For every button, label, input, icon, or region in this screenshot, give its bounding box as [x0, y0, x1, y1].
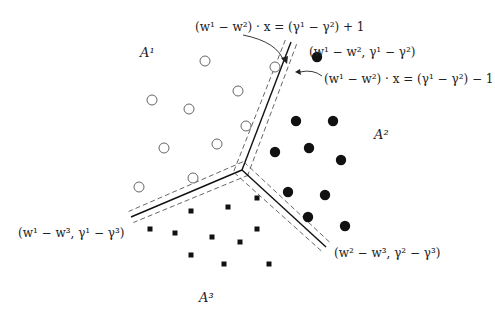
class1-point — [233, 86, 243, 96]
boundary-2-3-text: (w² − w³, γ² − γ³) — [334, 246, 441, 260]
class1-point — [147, 95, 157, 105]
class1-point — [184, 104, 194, 114]
class1-point — [200, 56, 210, 66]
class2-point — [336, 155, 346, 165]
class1-point — [270, 62, 280, 72]
arrow-margin-minus — [300, 71, 322, 76]
label-margin-plus: (w¹ − w²) · x = (γ¹ − γ²) + 1 — [195, 21, 364, 33]
boundary-1-3-text: (w¹ − w³, γ¹ − γ³) — [18, 226, 125, 240]
boundary-2-3-line — [242, 170, 326, 247]
label-margin-minus: (w¹ − w²) · x = (γ¹ − γ²) − 1 — [324, 73, 493, 85]
class3-point — [222, 262, 227, 267]
class2-point — [270, 147, 280, 157]
label-boundary-1-2: (w¹ − w², γ¹ − γ²) — [309, 46, 416, 58]
class2-point — [283, 187, 293, 197]
class3-point — [255, 196, 260, 201]
class3-point — [226, 205, 231, 210]
label-boundary-1-3: (w¹ − w³, γ¹ − γ³) — [18, 227, 125, 239]
class3-point — [189, 253, 194, 258]
class2-point — [328, 116, 338, 126]
region-a1-text: A¹ — [140, 45, 155, 60]
class2-point — [340, 221, 350, 231]
class1-point — [159, 143, 169, 153]
class3-point — [173, 231, 178, 236]
class1-point — [134, 182, 144, 192]
class3-point — [238, 240, 243, 245]
boundary-1-2-text: (w¹ − w², γ¹ − γ²) — [309, 45, 416, 59]
label-boundary-2-3: (w² − w³, γ² − γ³) — [334, 247, 441, 259]
class2-point — [320, 190, 330, 200]
diagram-graphic — [0, 0, 495, 318]
margin-plus-text: (w¹ − w²) · x = (γ¹ − γ²) + 1 — [195, 20, 364, 34]
class3-point — [189, 209, 194, 214]
region-a3-text: A³ — [199, 290, 214, 305]
class3-point — [148, 227, 153, 232]
class2-point — [291, 116, 301, 126]
arrowhead-margin-minus — [295, 69, 301, 75]
region-label-a2: A² — [374, 128, 389, 141]
region-label-a3: A³ — [199, 291, 214, 304]
boundary-1-3-margin-plus — [129, 162, 243, 212]
class1-point — [188, 173, 198, 183]
region-a2-text: A² — [374, 127, 389, 142]
margin-minus-text: (w¹ − w²) · x = (γ¹ − γ²) − 1 — [324, 72, 493, 86]
region-label-a1: A¹ — [140, 46, 155, 59]
class1-point — [212, 139, 222, 149]
class1-point — [241, 121, 251, 131]
class3-point — [255, 227, 260, 232]
class2-point — [304, 143, 314, 153]
boundary-1-3-line — [131, 170, 242, 217]
class3-point — [267, 262, 272, 267]
class3-point — [210, 235, 215, 240]
class2-point — [303, 212, 313, 222]
svm-diagram: (w¹ − w²) · x = (γ¹ − γ²) + 1 (w¹ − w², … — [0, 0, 495, 318]
